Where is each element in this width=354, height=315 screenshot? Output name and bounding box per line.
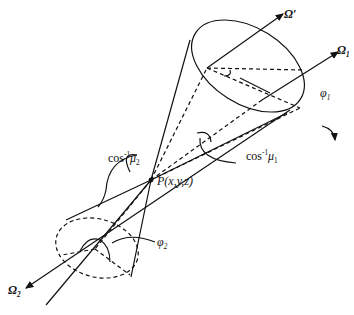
upper-cone-side-left [151,40,190,180]
label-phi-1: φ1 [320,87,330,103]
cos-mu1-arc [197,132,211,142]
rotation-arrow [322,126,335,140]
lower-cone-side-1 [66,180,151,220]
omega-2-axis [26,110,290,288]
diagram-canvas [0,0,354,315]
point-p [149,178,153,182]
lower-cone-rim [49,209,145,287]
label-phi-2: φ2 [157,236,167,252]
label-cos-mu2: cos-1μ2 [108,152,140,168]
label-omega-2: Ω2 [8,284,21,300]
label-omega-prime: Ω′ [284,8,296,20]
lower-cone-side-2 [131,180,151,277]
upper-cone-rim [175,1,320,131]
omega-prime-axis [207,14,283,68]
label-point-p: P(x,y,z) [157,175,193,187]
label-omega-1: Ω1 [337,44,350,60]
phi1-arc [224,70,230,76]
label-cos-mu1: cos-1μ1 [246,150,278,166]
